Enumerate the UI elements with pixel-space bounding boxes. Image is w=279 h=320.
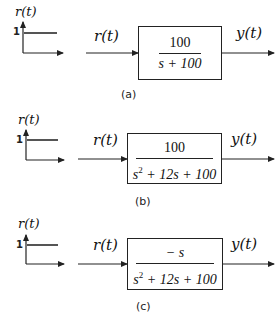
tf-denominator-a: s + 100 xyxy=(139,56,221,72)
step-plot-c xyxy=(26,235,64,264)
output-label-c: y(t) xyxy=(231,235,257,253)
step-plot-b xyxy=(26,130,64,160)
tf-denominator-b: s2 + 12s + 100 xyxy=(128,162,221,183)
tf-numerator-c: − s xyxy=(128,245,222,261)
tf-numerator-a: 100 xyxy=(139,35,221,51)
transfer-function-block-b: 100 s2 + 12s + 100 xyxy=(127,133,222,184)
output-label-b: y(t) xyxy=(231,130,257,148)
step-label-b: r(t) xyxy=(18,112,40,127)
tf-numerator-b: 100 xyxy=(128,140,221,156)
step-label-c: r(t) xyxy=(18,216,40,231)
output-label-a: y(t) xyxy=(236,24,262,42)
step-label-a: r(t) xyxy=(15,4,37,19)
step-plot-a xyxy=(23,22,63,53)
transfer-function-block-c: − s s2 + 12s + 100 xyxy=(127,238,223,290)
caption-a: (a) xyxy=(121,88,136,101)
input-label-b: r(t) xyxy=(93,131,118,149)
transfer-function-block-a: 100 s + 100 xyxy=(138,26,222,80)
input-label-c: r(t) xyxy=(93,236,118,254)
fraction-bar-a xyxy=(159,53,201,54)
step-value-a: 1 xyxy=(13,26,20,37)
caption-c: (c) xyxy=(136,300,151,313)
step-value-c: 1 xyxy=(16,239,23,250)
input-label-a: r(t) xyxy=(94,27,119,45)
caption-b: (b) xyxy=(135,195,151,208)
fraction-bar-b xyxy=(136,158,213,159)
step-value-b: 1 xyxy=(16,134,23,145)
tf-denominator-c: s2 + 12s + 100 xyxy=(128,267,222,288)
fraction-bar-c xyxy=(136,263,214,264)
